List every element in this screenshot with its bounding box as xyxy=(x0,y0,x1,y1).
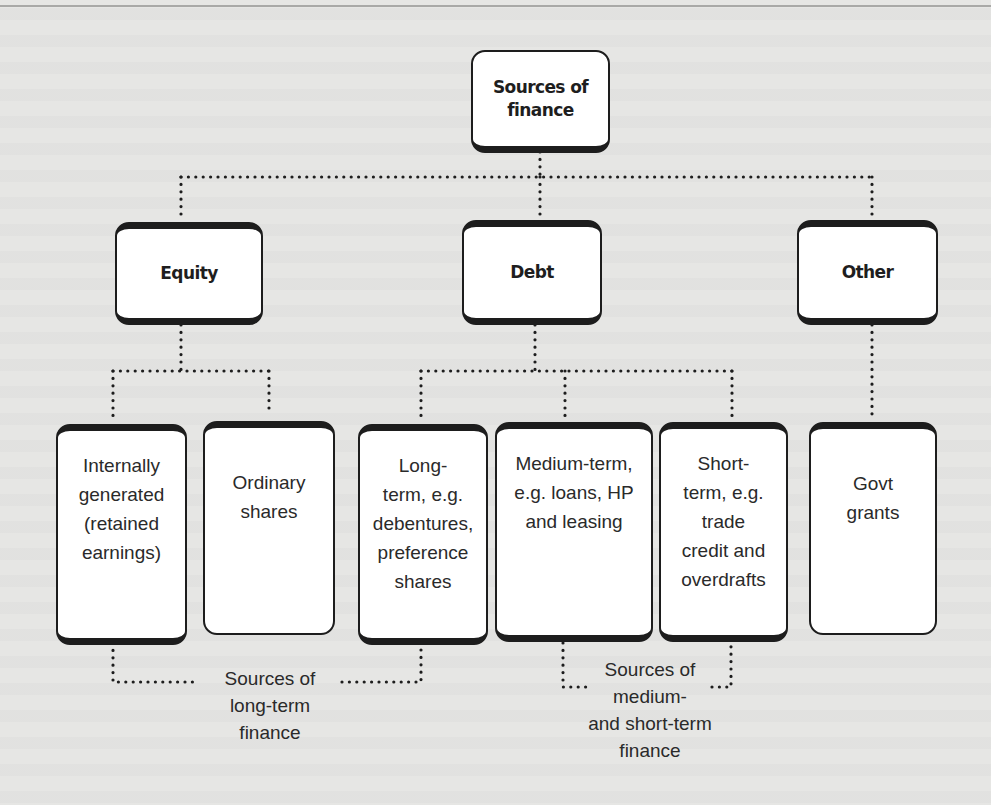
node-sources-of-finance: Sources of finance xyxy=(471,50,610,153)
bracket-long-term-right xyxy=(342,643,421,682)
node-short-term-debt: Short- term, e.g. trade credit and overd… xyxy=(659,422,788,642)
node-label: Internally generated (retained earnings) xyxy=(79,431,165,567)
node-label: Other xyxy=(842,261,894,284)
node-label: Debt xyxy=(510,261,554,284)
node-internally-generated: Internally generated (retained earnings) xyxy=(56,424,187,645)
node-label: Long- term, e.g. debentures, preference … xyxy=(373,431,473,596)
node-debt: Debt xyxy=(462,220,602,325)
node-long-term-debt: Long- term, e.g. debentures, preference … xyxy=(358,424,488,645)
node-medium-term-debt: Medium-term, e.g. loans, HP and leasing xyxy=(495,422,653,642)
node-ordinary-shares: Ordinary shares xyxy=(203,421,335,635)
node-other: Other xyxy=(797,220,938,325)
node-label: Medium-term, e.g. loans, HP and leasing xyxy=(514,429,633,536)
node-label: Equity xyxy=(160,262,217,285)
bracket-long-term-left xyxy=(113,643,199,682)
node-label: Ordinary shares xyxy=(233,428,306,526)
group-label-long-term: Sources of long-term finance xyxy=(195,665,345,746)
node-equity: Equity xyxy=(115,222,263,325)
group-label-medium-short-term: Sources of medium- and short-term financ… xyxy=(560,656,740,764)
node-govt-grants: Govt grants xyxy=(809,422,937,635)
node-label: Sources of finance xyxy=(493,76,588,122)
node-label: Short- term, e.g. trade credit and overd… xyxy=(681,429,765,594)
node-label: Govt grants xyxy=(847,429,900,527)
